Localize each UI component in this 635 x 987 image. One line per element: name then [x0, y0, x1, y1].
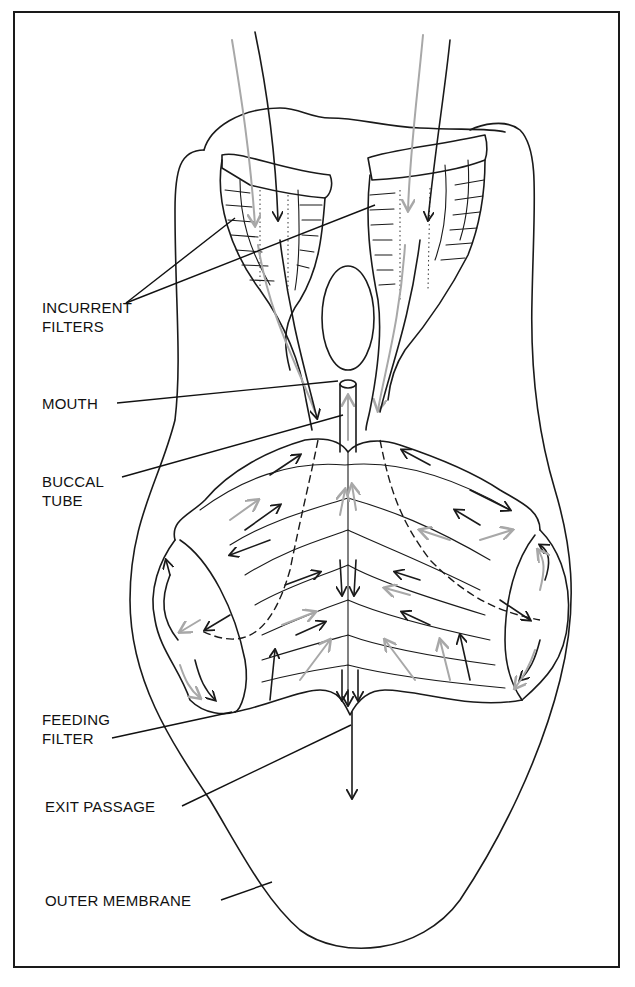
incoming-flow-arrows	[232, 32, 450, 418]
label-incurrent-filters: INCURRENT FILTERS	[42, 298, 132, 336]
label-line: FEEDING	[42, 710, 110, 729]
outer-membrane-shape	[130, 108, 571, 948]
filter-grid-right	[370, 180, 484, 300]
label-exit-passage: EXIT PASSAGE	[45, 797, 155, 816]
label-mouth: MOUTH	[42, 394, 98, 413]
label-feeding-filter: FEEDING FILTER	[42, 710, 110, 748]
mouth-opening	[340, 380, 356, 388]
central-oval	[322, 266, 374, 370]
label-line: INCURRENT	[42, 298, 132, 317]
label-line: FILTER	[42, 729, 110, 748]
feeding-filter-shape	[153, 439, 569, 715]
leader-lines	[112, 205, 375, 900]
label-line: TUBE	[42, 491, 104, 510]
label-line: MOUTH	[42, 394, 98, 413]
label-outer-membrane: OUTER MEMBRANE	[45, 891, 191, 910]
filter-grid-left	[225, 190, 322, 290]
buccal-tube-shape	[340, 380, 356, 452]
label-line: EXIT PASSAGE	[45, 797, 155, 816]
label-line: FILTERS	[42, 317, 132, 336]
label-buccal-tube: BUCCAL TUBE	[42, 472, 104, 510]
incurrent-filter-left	[220, 154, 331, 430]
diagram-figure: INCURRENT FILTERS MOUTH BUCCAL TUBE FEED…	[0, 0, 635, 987]
label-line: BUCCAL	[42, 472, 104, 491]
label-line: OUTER MEMBRANE	[45, 891, 191, 910]
incurrent-filter-right	[366, 135, 487, 430]
